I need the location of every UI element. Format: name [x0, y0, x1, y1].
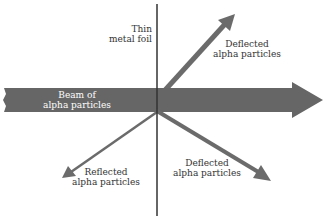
beam-label: Beam of alpha particles: [40, 90, 114, 110]
reflected-label: Reflected alpha particles: [72, 167, 140, 187]
deflected-lower-label: Deflected alpha particles: [168, 158, 246, 178]
foil-label: Thin metal foil: [100, 24, 152, 44]
deflected-upper-label: Deflected alpha particles: [208, 39, 286, 59]
